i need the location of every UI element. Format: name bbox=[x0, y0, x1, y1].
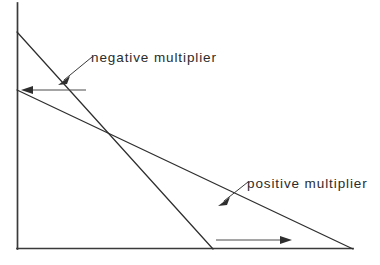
positive-multiplier-label: positive multiplier bbox=[247, 177, 368, 191]
leader-negative-multiplier-arrowhead bbox=[58, 76, 70, 85]
leader-positive-multiplier-arrowhead bbox=[218, 197, 230, 206]
shallow-line bbox=[17, 90, 353, 249]
multiplier-diagram: negative multiplier positive multiplier bbox=[0, 0, 380, 265]
diagram-canvas bbox=[0, 0, 380, 265]
leader-negative-multiplier bbox=[64, 57, 92, 80]
negative-multiplier-label: negative multiplier bbox=[91, 51, 217, 65]
horizontal-intercept-shift-arrowhead bbox=[280, 236, 292, 244]
